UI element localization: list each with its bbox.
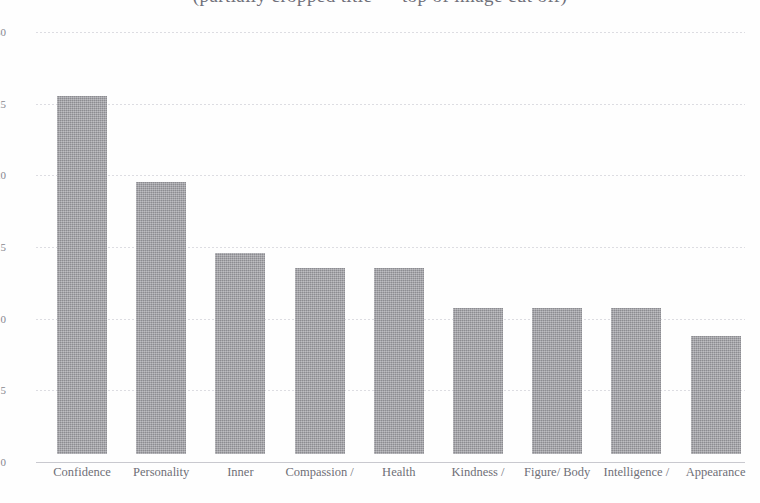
chart-title-clipped: (partially cropped title — top of image … <box>0 0 760 13</box>
bar <box>374 268 424 454</box>
chart-title: (partially cropped title — top of image … <box>0 0 760 7</box>
bar <box>57 96 107 454</box>
x-axis-label: Confidence <box>42 466 121 480</box>
y-tick-label-5: 5 <box>0 385 6 396</box>
bar <box>453 308 503 454</box>
gridline-0 <box>36 462 745 463</box>
y-tick-label-15: 15 <box>0 242 6 253</box>
bar <box>295 268 345 454</box>
y-tick-label-25: 25 <box>0 99 6 110</box>
y-tick-label-20: 20 <box>0 170 6 181</box>
x-axis-labels-group: ConfidencePersonalityInnerCompassion /He… <box>36 466 748 496</box>
bar <box>136 182 186 454</box>
bar <box>691 336 741 454</box>
bar <box>611 308 661 454</box>
x-axis-label: Personality <box>122 466 201 480</box>
bar <box>532 308 582 454</box>
bars-group <box>36 28 748 458</box>
x-axis-label: Appearance <box>676 466 755 480</box>
x-axis-label: Intelligence / <box>597 466 676 480</box>
x-axis-label: Kindness / <box>438 466 517 480</box>
y-tick-label-0: 0 <box>0 457 6 468</box>
bar-chart-figure: (partially cropped title — top of image … <box>0 0 760 503</box>
plot-area: 051015202530 <box>36 28 748 462</box>
y-tick-label-30: 30 <box>0 27 6 38</box>
x-axis-label: Inner <box>201 466 280 480</box>
y-tick-label-10: 10 <box>0 314 6 325</box>
x-axis-label: Compassion / <box>280 466 359 480</box>
x-axis-label: Figure/ Body <box>518 466 597 480</box>
x-axis-label: Health <box>359 466 438 480</box>
bar <box>215 253 265 454</box>
